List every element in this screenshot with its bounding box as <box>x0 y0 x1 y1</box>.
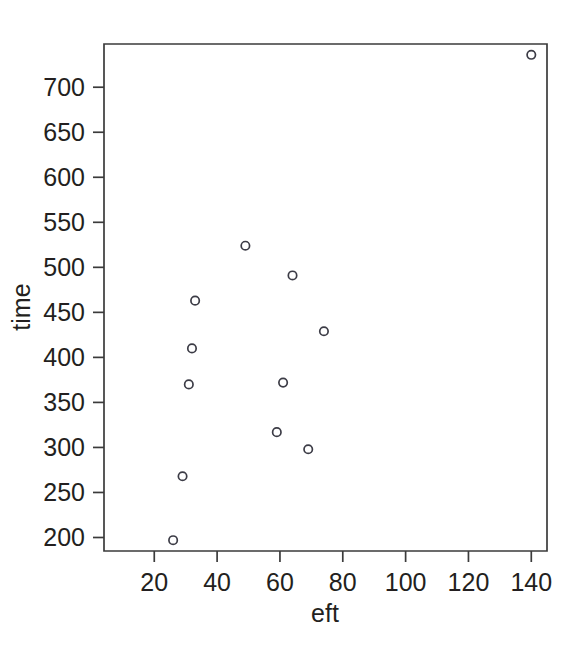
y-tick-label-550: 550 <box>43 208 85 236</box>
y-tick-label-700: 700 <box>43 73 85 101</box>
data-point <box>273 428 281 436</box>
x-tick-label-100: 100 <box>385 568 427 596</box>
x-axis-title: eft <box>311 599 339 627</box>
data-point <box>527 51 535 59</box>
data-point <box>320 327 328 335</box>
x-tick-label-120: 120 <box>448 568 490 596</box>
plot-frame-box <box>104 44 547 551</box>
y-tick-label-650: 650 <box>43 118 85 146</box>
y-tick-label-400: 400 <box>43 343 85 371</box>
data-point <box>304 445 312 453</box>
plot-frame <box>104 44 547 551</box>
x-tick-label-60: 60 <box>266 568 294 596</box>
y-tick-label-500: 500 <box>43 253 85 281</box>
y-tick-label-450: 450 <box>43 298 85 326</box>
y-axis-tick-labels: 200250300350400450500550600650700 <box>43 73 85 551</box>
y-axis-title: time <box>7 283 35 330</box>
y-tick-label-350: 350 <box>43 388 85 416</box>
data-point <box>279 378 287 386</box>
data-point <box>241 242 249 250</box>
data-point <box>191 296 199 304</box>
x-tick-label-140: 140 <box>510 568 552 596</box>
y-tick-label-250: 250 <box>43 478 85 506</box>
data-point <box>288 271 296 279</box>
y-tick-label-300: 300 <box>43 433 85 461</box>
y-tick-label-600: 600 <box>43 163 85 191</box>
x-tick-label-40: 40 <box>203 568 231 596</box>
x-axis-ticks <box>154 551 531 562</box>
y-tick-label-200: 200 <box>43 523 85 551</box>
data-point <box>178 472 186 480</box>
x-axis-tick-labels: 20406080100120140 <box>140 568 552 596</box>
data-points <box>169 51 536 545</box>
data-point <box>188 344 196 352</box>
scatter-plot-figure: 20406080100120140 2002503003504004505005… <box>0 0 588 647</box>
x-tick-label-20: 20 <box>140 568 168 596</box>
data-point <box>169 536 177 544</box>
plot-canvas: 20406080100120140 2002503003504004505005… <box>0 0 588 647</box>
y-axis-ticks <box>93 87 104 537</box>
data-point <box>185 380 193 388</box>
x-tick-label-80: 80 <box>329 568 357 596</box>
